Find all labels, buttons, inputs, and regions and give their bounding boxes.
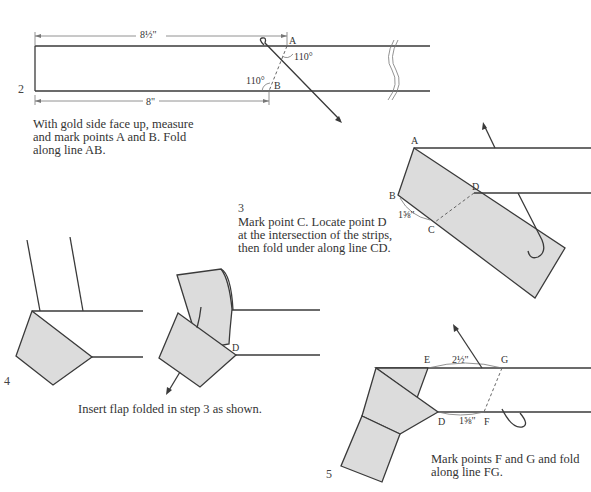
step-5-number: 5 xyxy=(326,467,332,481)
label-a: A xyxy=(289,35,297,46)
step-4-figure-a xyxy=(16,237,143,385)
step-3-number: 3 xyxy=(238,201,244,215)
step-5-caption: Mark points F and G and fold along line … xyxy=(431,453,580,479)
label-d-step4: D xyxy=(232,342,239,353)
caption-line: along line AB. xyxy=(33,144,194,157)
label-f: F xyxy=(484,416,490,427)
dim-8-1-2: 8½" xyxy=(140,29,157,40)
label-d-step3: D xyxy=(472,181,479,192)
dim-1-5-8: 1⅝" xyxy=(398,209,415,220)
angle-110-bottom: 110° xyxy=(246,75,265,86)
label-e: E xyxy=(424,354,430,365)
label-b: B xyxy=(274,80,281,91)
label-c-step3: C xyxy=(428,224,435,235)
label-b-step3: B xyxy=(389,190,396,201)
dim-1-5-8-step5: 1⅝" xyxy=(459,415,476,426)
dim-2-1-2: 2½" xyxy=(452,354,469,365)
step-3-figure xyxy=(398,122,591,298)
label-a-step3: A xyxy=(411,135,419,146)
dim-8: 8" xyxy=(146,96,155,107)
step-2-number: 2 xyxy=(18,82,24,96)
caption-line: along line FG. xyxy=(431,466,580,479)
label-d-step5: D xyxy=(438,416,445,427)
step-2-caption: With gold side face up, measure and mark… xyxy=(33,118,194,157)
step-4-number: 4 xyxy=(4,374,10,388)
caption-line: then fold under along line CD. xyxy=(238,242,392,255)
caption-line: Insert flap folded in step 3 as shown. xyxy=(78,403,262,416)
step-2-figure xyxy=(35,28,430,123)
angle-110-top: 110° xyxy=(294,51,313,62)
step-4-caption: Insert flap folded in step 3 as shown. xyxy=(78,403,262,416)
step-4-figure-b xyxy=(159,269,320,395)
step-3-caption: Mark point C. Locate point D at the inte… xyxy=(238,216,392,255)
label-g: G xyxy=(501,354,508,365)
